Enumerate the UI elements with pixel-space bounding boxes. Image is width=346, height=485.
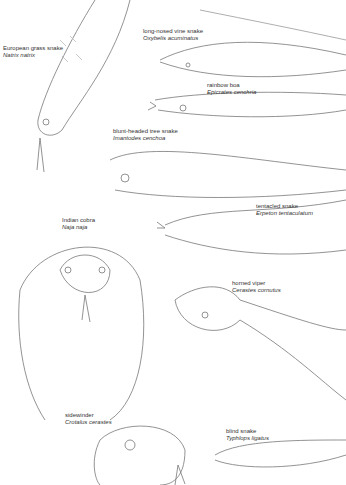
indian-cobra-drawing [19, 247, 144, 420]
scientific-name: Erpeton tentaculatum [256, 210, 313, 217]
vine-snake-drawing [160, 10, 346, 77]
scientific-name: Typhlops ligatus [226, 435, 269, 442]
label-grass-snake: European grass snake Natrix natrix [3, 45, 63, 59]
tentacled-snake-drawing [157, 200, 346, 254]
label-indian-cobra: Indian cobra Naja naja [62, 217, 95, 231]
scientific-name: Imantodes cenchoa [113, 135, 178, 142]
common-name: tentacled snake [256, 203, 313, 210]
label-horned-viper: horned viper Cerastes cornutus [232, 280, 281, 294]
label-blind-snake: blind snake Typhlops ligatus [226, 428, 269, 442]
common-name: blind snake [226, 428, 269, 435]
common-name: rainbow boa [207, 82, 256, 89]
scientific-name: Oxybelis acuminatus [143, 35, 203, 42]
common-name: sidewinder [65, 412, 112, 419]
blind-snake-drawing [215, 440, 346, 467]
scientific-name: Naja naja [62, 224, 95, 231]
label-tentacled-snake: tentacled snake Erpeton tentaculatum [256, 203, 313, 217]
common-name: horned viper [232, 280, 281, 287]
scientific-name: Crotalus cerastes [65, 419, 112, 426]
scientific-name: Epicrates cenchria [207, 89, 256, 96]
scientific-name: Cerastes cornutus [232, 287, 281, 294]
label-vine-snake: long-nosed vine snake Oxybelis acuminatu… [143, 28, 203, 42]
label-sidewinder: sidewinder Crotalus cerastes [65, 412, 112, 426]
common-name: long-nosed vine snake [143, 28, 203, 35]
scientific-name: Natrix natrix [3, 52, 63, 59]
label-tree-snake: blunt-headed tree snake Imantodes cencho… [113, 128, 178, 142]
common-name: European grass snake [3, 45, 63, 52]
horned-viper-drawing [175, 287, 346, 400]
grass-snake-drawing [37, 0, 130, 172]
common-name: blunt-headed tree snake [113, 128, 178, 135]
label-rainbow-boa: rainbow boa Epicrates cenchria [207, 82, 256, 96]
snake-illustrations [0, 0, 346, 485]
common-name: Indian cobra [62, 217, 95, 224]
tree-snake-drawing [110, 151, 346, 197]
sidewinder-drawing [94, 426, 185, 485]
